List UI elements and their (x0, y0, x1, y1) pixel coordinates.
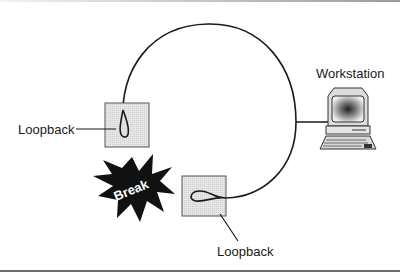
break-starburst: Break (93, 154, 175, 222)
ring-diagram: Loopback Loopback Break Workstation (0, 0, 400, 276)
loopback-bottom (182, 176, 226, 216)
loopback-left-label: Loopback (18, 122, 75, 137)
loopback-bottom-pointer (220, 214, 238, 241)
diagram-frame: Loopback Loopback Break Workstation (0, 0, 400, 276)
loopback-left (105, 103, 149, 147)
workstation-label: Workstation (316, 66, 384, 81)
computer-icon (320, 88, 376, 149)
loopback-bottom-label: Loopback (217, 244, 274, 259)
